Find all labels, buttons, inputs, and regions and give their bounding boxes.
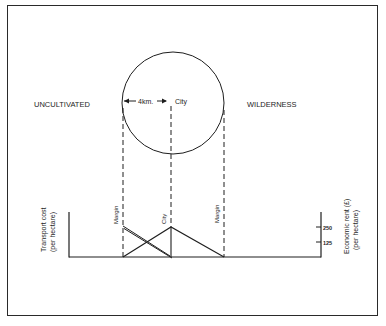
tick-label-250: 250 xyxy=(323,225,332,231)
left-axis-label-line1: Transport cost xyxy=(40,207,48,252)
region-label-uncultivated: UNCULTIVATED xyxy=(34,100,90,109)
left-axis-label-line2: (per hectare) xyxy=(49,212,57,252)
right-axis-label-line1: Economic rent (£) xyxy=(343,199,351,254)
arrow-right-icon xyxy=(162,99,167,104)
radius-label: 4km. xyxy=(138,98,153,105)
economic-rent-line xyxy=(123,227,224,257)
circle-city-label: City xyxy=(175,98,188,106)
diagram-canvas: UNCULTIVATED WILDERNESS 4km. City Margin… xyxy=(0,0,386,326)
marker-label-left-margin: Margin xyxy=(113,206,119,224)
tick-label-125: 125 xyxy=(323,240,332,246)
right-axis-label-line2: (per hectare) xyxy=(352,210,360,250)
arrow-left-icon xyxy=(124,99,129,104)
region-label-wilderness: WILDERNESS xyxy=(247,100,297,109)
marker-label-right-margin: Margin xyxy=(214,205,220,223)
marker-label-city: City xyxy=(161,214,167,224)
